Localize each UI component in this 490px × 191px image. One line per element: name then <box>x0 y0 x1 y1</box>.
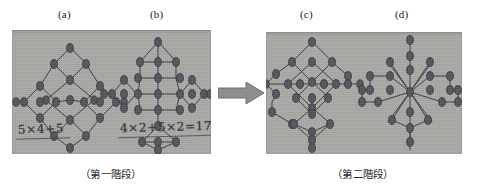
handwritten-equation-b: 4×2+5×2=17 <box>120 119 211 136</box>
photo-panel-stage-one: 5×4+5 4×2+5×2=17 <box>12 30 211 154</box>
caption-stage-one: （第一階段） <box>80 166 142 181</box>
panel-label-c: (c) <box>300 8 313 20</box>
caption-stage-two: （第二階段） <box>332 166 394 181</box>
panel-label-b: (b) <box>150 8 163 20</box>
panel-label-a: (a) <box>58 8 71 20</box>
photo-panel-stage-two <box>266 32 462 154</box>
diagram-c-and-d <box>266 32 462 154</box>
panel-label-d: (d) <box>395 8 408 20</box>
figure-container: (a) (b) (c) (d) <box>0 0 490 191</box>
handwritten-equation-a: 5×4+5 <box>18 121 64 136</box>
right-arrow-icon <box>218 82 264 104</box>
